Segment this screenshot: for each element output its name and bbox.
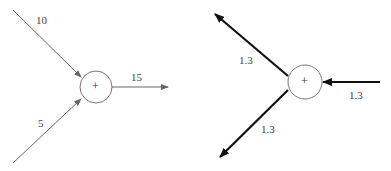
- right-output-label-top: 1.3: [239, 55, 253, 66]
- right-output-label-bottom: 1.3: [261, 124, 275, 135]
- edge-gradient-out-bottom: [220, 90, 288, 157]
- left-output-label: 15: [131, 72, 142, 83]
- left-node-symbol: +: [92, 80, 99, 92]
- edge-gradient-out-top: [215, 14, 288, 76]
- right-backward-pass: [215, 14, 380, 157]
- right-node-symbol: +: [301, 75, 308, 87]
- edge-input-5: [13, 99, 81, 163]
- left-forward-pass: [13, 10, 168, 163]
- edge-input-10: [13, 10, 81, 77]
- diagram-canvas: [0, 0, 391, 171]
- right-input-label: 1.3: [349, 90, 363, 101]
- left-input-label-bottom: 5: [38, 118, 44, 129]
- left-input-label-top: 10: [36, 15, 47, 26]
